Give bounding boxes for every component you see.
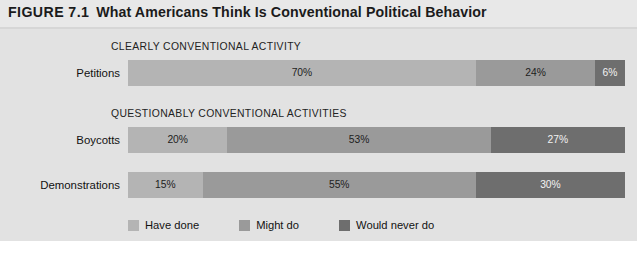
legend-swatch-icon <box>239 220 250 231</box>
bar-segment-label: 6% <box>603 68 618 78</box>
bar-segment-demonstrations-might-do: 55% <box>203 172 476 198</box>
bar-segment-label: 70% <box>292 68 313 78</box>
bar-segment-demonstrations-would-never-do: 30% <box>476 172 625 198</box>
bar-segment-label: 20% <box>167 135 188 145</box>
page-title: FIGURE 7.1What Americans Think Is Conven… <box>8 4 487 20</box>
bar-segment-label: 55% <box>329 180 350 190</box>
bar-segment-label: 30% <box>540 180 561 190</box>
figure-number: FIGURE 7.1 <box>8 4 89 20</box>
figure-title-band: FIGURE 7.1What Americans Think Is Conven… <box>0 0 637 27</box>
bar-segment-boycotts-would-never-do: 27% <box>491 127 625 153</box>
bar-segment-boycotts-might-do: 53% <box>227 127 490 153</box>
bar-segment-demonstrations-have-done: 15% <box>128 172 203 198</box>
figure-container: FIGURE 7.1What Americans Think Is Conven… <box>0 0 637 253</box>
legend-item-have-done: Have done <box>128 219 199 231</box>
bar-row-petitions: 70% 24% 6% <box>128 60 625 86</box>
row-label-boycotts: Boycotts <box>0 134 120 146</box>
bar-segment-label: 24% <box>525 68 546 78</box>
bar-segment-boycotts-have-done: 20% <box>128 127 227 153</box>
bar-segment-petitions-have-done: 70% <box>128 60 476 86</box>
bar-segment-label: 53% <box>349 135 370 145</box>
bar-row-boycotts: 20% 53% 27% <box>128 127 625 153</box>
legend-label: Might do <box>256 219 299 231</box>
legend-item-would-never-do: Would never do <box>339 219 434 231</box>
section-caption-clearly-conventional: CLEARLY CONVENTIONAL ACTIVITY <box>111 41 301 52</box>
section-caption-questionably-conventional: QUESTIONABLY CONVENTIONAL ACTIVITIES <box>111 108 347 119</box>
figure-title-text: What Americans Think Is Conventional Pol… <box>96 4 486 20</box>
legend-label: Would never do <box>356 219 434 231</box>
bar-row-demonstrations: 15% 55% 30% <box>128 172 625 198</box>
chart-legend: Have done Might do Would never do <box>128 219 434 231</box>
legend-swatch-icon <box>339 220 350 231</box>
legend-label: Have done <box>145 219 199 231</box>
legend-item-might-do: Might do <box>239 219 299 231</box>
legend-swatch-icon <box>128 220 139 231</box>
row-label-petitions: Petitions <box>0 67 120 79</box>
bar-segment-label: 27% <box>548 135 569 145</box>
bar-segment-label: 15% <box>155 180 176 190</box>
bar-segment-petitions-would-never-do: 6% <box>595 60 625 86</box>
bar-segment-petitions-might-do: 24% <box>476 60 595 86</box>
row-label-demonstrations: Demonstrations <box>0 179 120 191</box>
